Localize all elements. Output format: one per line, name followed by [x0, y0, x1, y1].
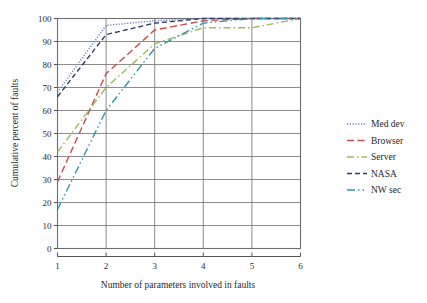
- legend-label-browser: Browser: [371, 136, 404, 146]
- chart-root: 1009080706050403020100 123456 Med devBro…: [0, 0, 427, 303]
- legend-label-med-dev: Med dev: [371, 119, 405, 129]
- x-axis-title: Number of parameters involved in faults: [101, 280, 256, 290]
- chart-canvas: 1009080706050403020100 123456 Med devBro…: [0, 0, 427, 303]
- series-lines: [58, 19, 301, 210]
- y-tick-label: 30: [43, 175, 53, 185]
- y-tick-labels: 1009080706050403020100: [38, 14, 58, 254]
- y-tick-label: 10: [43, 221, 53, 231]
- x-tick-marks: [58, 253, 301, 257]
- y-axis-title: Cumulative percent of faults: [10, 78, 20, 187]
- y-tick-label: 70: [43, 83, 53, 93]
- y-tick-label: 90: [43, 37, 53, 47]
- x-tick-label: 6: [298, 261, 303, 271]
- x-tick-labels: 123456: [55, 261, 303, 271]
- legend-label-server: Server: [371, 152, 397, 162]
- chart-figure: 1009080706050403020100 123456 Med devBro…: [0, 0, 427, 303]
- y-tick-label: 50: [43, 129, 53, 139]
- legend: Med devBrowserServerNASANW sec: [347, 119, 405, 195]
- series-line-med-dev: [58, 19, 301, 93]
- legend-label-nw-sec: NW sec: [371, 185, 401, 195]
- series-line-server: [58, 19, 301, 152]
- x-tick-label: 4: [201, 261, 206, 271]
- y-tick-label: 80: [43, 60, 53, 70]
- y-tick-label: 40: [43, 152, 53, 162]
- y-tick-label: 20: [43, 198, 53, 208]
- series-line-nasa: [58, 19, 301, 97]
- x-tick-label: 5: [250, 261, 255, 271]
- series-line-browser: [58, 19, 301, 182]
- legend-label-nasa: NASA: [371, 169, 397, 179]
- y-tick-label: 60: [43, 106, 53, 116]
- gridlines: [58, 19, 301, 249]
- y-tick-label: 0: [47, 244, 52, 254]
- x-tick-label: 1: [55, 261, 60, 271]
- series-line-nw-sec: [58, 19, 301, 210]
- y-tick-label: 100: [38, 14, 52, 24]
- x-tick-label: 2: [104, 261, 109, 271]
- x-tick-label: 3: [152, 261, 157, 271]
